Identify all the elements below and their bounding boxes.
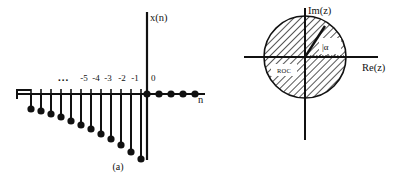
- stem-plot-origin-label: 0: [151, 73, 156, 83]
- stem-sample-dot: [127, 148, 134, 155]
- stem-sample-dot: [27, 105, 34, 112]
- stem-plot-samples-negative: [27, 105, 144, 162]
- stem-sample-dot: [37, 107, 44, 114]
- stem-plot-tick-label-minus2: -2: [118, 73, 126, 83]
- stem-sample-dot: [107, 135, 114, 142]
- roc-label: ROC: [277, 67, 291, 74]
- figure-svg: ... -5 -4 -3 -2 -1 0 x(n) n (a): [0, 0, 412, 181]
- stem-sample-dot: [137, 155, 144, 162]
- stem-sample-dot: [77, 121, 84, 128]
- stem-sample-dot: [167, 90, 174, 97]
- z-plane-imaginary-axis-label: Im(z): [308, 5, 332, 17]
- z-plane-real-axis-label: Re(z): [362, 62, 386, 74]
- figure-container: ... -5 -4 -3 -2 -1 0 x(n) n (a): [0, 0, 412, 181]
- z-plane-panel: |α ROC Im(z) Re(z): [244, 5, 386, 140]
- stem-sample-dot: [155, 90, 162, 97]
- radius-label: |α: [322, 42, 329, 52]
- stem-plot-ellipsis: ...: [58, 71, 69, 83]
- stem-sample-dot: [179, 90, 186, 97]
- stem-sample-dot: [47, 110, 54, 117]
- stem-plot-tick-label-minus4: -4: [92, 73, 100, 83]
- stem-plot-stems-negative: [31, 94, 141, 158]
- stem-plot-tick-label-minus5: -5: [80, 73, 88, 83]
- stem-sample-dot: [97, 130, 104, 137]
- stem-plot-x-axis-label: n: [198, 94, 204, 105]
- stem-sample-dot: [67, 117, 74, 124]
- figure-caption-a: (a): [112, 161, 123, 173]
- stem-sample-dot: [143, 90, 150, 97]
- stem-plot-tick-label-minus3: -3: [104, 73, 112, 83]
- stem-sample-dot: [57, 113, 64, 120]
- stem-plot-y-axis-label: x(n): [150, 12, 168, 24]
- stem-plot-panel: ... -5 -4 -3 -2 -1 0 x(n) n (a): [16, 12, 205, 173]
- stem-sample-dot: [117, 141, 124, 148]
- stem-plot-tick-label-minus1: -1: [131, 73, 139, 83]
- stem-sample-dot: [87, 125, 94, 132]
